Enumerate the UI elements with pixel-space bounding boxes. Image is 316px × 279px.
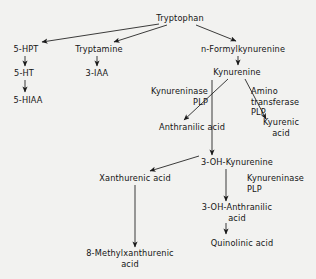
enzyme-label-amino-transferase-plp: Amino transferase PLP: [251, 86, 299, 118]
node-3-oh-kynurenine: 3-OH-Kynurenine: [201, 157, 273, 168]
node-tryptophan: Tryptophan: [156, 13, 204, 24]
node-5-ht: 5-HT: [14, 68, 34, 79]
arrow-3-oh-kynurenine-to-xanthurenic-acid: [150, 156, 199, 171]
node-tryptamine: Tryptamine: [75, 44, 122, 55]
node-kyurenic-acid: Kyurenic acid: [263, 117, 299, 138]
node-kynurenine: Kynurenine: [213, 67, 260, 78]
node-n-formylkynurenine: n-Formylkynurenine: [201, 44, 285, 55]
node-3-oh-anthranilic-acid: 3-OH-Anthranilic acid: [202, 202, 272, 223]
node-3-iaa: 3-IAA: [86, 68, 109, 79]
arrow-tryptophan-to-n-formylkynurenine: [196, 25, 236, 41]
arrow-tryptophan-to-tryptamine: [114, 25, 167, 42]
node-5-hpt: 5-HPT: [13, 44, 38, 55]
node-5-hiaa: 5-HIAA: [13, 95, 42, 106]
arrow-tryptophan-to-5-hpt: [42, 24, 159, 42]
node-8-methylxanthurenic-acid: 8-Methylxanthurenic acid: [86, 248, 173, 269]
tryptophan-pathway-diagram: Tryptophan 5-HPT Tryptamine n-Formylkynu…: [0, 0, 316, 279]
enzyme-label-kynureninase-plp-1: Kynureninase PLP: [151, 86, 208, 107]
node-quinolinic-acid: Quinolinic acid: [211, 238, 273, 249]
node-xanthurenic-acid: Xanthurenic acid: [99, 173, 171, 184]
node-anthranilic-acid: Anthranilic acid: [159, 122, 225, 133]
enzyme-label-kynureninase-plp-2: Kynureninase PLP: [247, 173, 304, 194]
